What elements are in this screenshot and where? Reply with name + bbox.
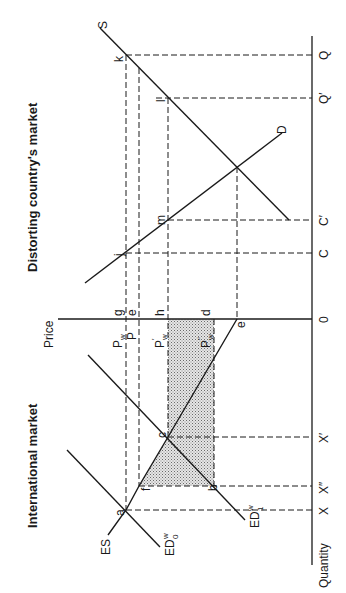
point-a: a xyxy=(113,509,127,516)
point-c: c xyxy=(155,432,169,438)
tick-c: C xyxy=(317,249,331,258)
svg-text:1: 1 xyxy=(256,506,265,511)
svg-text:P: P xyxy=(125,332,139,340)
svg-text:″: ″ xyxy=(196,337,205,340)
tick-c-prime: C′ xyxy=(317,214,331,226)
point-d: d xyxy=(199,309,213,316)
tick-x-double-prime: X″ xyxy=(317,481,331,494)
origin-label: 0 xyxy=(317,316,331,323)
svg-text:w: w xyxy=(206,334,215,341)
svg-text:w: w xyxy=(246,505,255,512)
tick-pw-prime: P w ′ xyxy=(150,334,169,348)
distorting-market-title: Distorting country's market xyxy=(25,102,40,272)
point-e-axis: e xyxy=(234,321,248,328)
curve-label-ed0: ED w 0 xyxy=(161,533,180,556)
svg-text:P: P xyxy=(111,340,125,348)
curve-label-es: ES xyxy=(99,539,113,555)
point-b: b xyxy=(206,484,220,491)
point-j: j xyxy=(112,253,126,257)
tick-q: Q xyxy=(317,51,331,60)
point-m: m xyxy=(154,215,168,225)
svg-text:ED: ED xyxy=(248,511,262,528)
svg-text:w: w xyxy=(161,533,170,540)
tick-p: P xyxy=(125,332,139,340)
point-e-price: e xyxy=(125,309,139,316)
curve-label-s: S xyxy=(96,21,110,29)
curve-label-ed1: ED w 1 xyxy=(246,505,265,528)
curve-label-d: D xyxy=(275,125,289,134)
svg-text:′: ′ xyxy=(150,338,159,340)
price-axis-label: Price xyxy=(42,320,56,348)
demand-curve-d xyxy=(85,133,282,283)
quantity-axis-label: Quantity xyxy=(317,543,331,588)
tick-x-prime: X′ xyxy=(317,432,331,443)
trade-distortion-diagram: Distorting country's market Internationa… xyxy=(0,0,346,593)
point-h: h xyxy=(153,309,167,316)
svg-text:w: w xyxy=(160,334,169,341)
tick-q-prime: Q′ xyxy=(317,92,331,104)
excess-demand-curve-ed0 xyxy=(67,450,160,547)
point-g: g xyxy=(111,309,125,316)
svg-text:ED: ED xyxy=(163,539,177,556)
supply-curve-s xyxy=(100,28,289,220)
svg-text:0: 0 xyxy=(171,534,180,539)
international-market-title: International market xyxy=(25,403,40,528)
point-l: l xyxy=(154,99,168,102)
svg-text:P: P xyxy=(199,340,213,348)
tick-x: X xyxy=(317,507,331,515)
point-f: f xyxy=(139,487,153,491)
point-k: k xyxy=(112,55,126,62)
svg-text:P: P xyxy=(153,340,167,348)
